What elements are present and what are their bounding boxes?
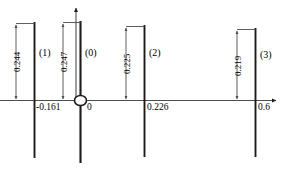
stem-diagram-figure: 0.244 0.247 0.225 0.219 (1) (0) (2) (3) …: [0, 0, 286, 169]
x-label-stem-1: -0.161: [36, 103, 61, 113]
dim-label-stem-0: 0.247: [60, 52, 69, 72]
x-label-stem-2: 0.226: [147, 103, 168, 113]
group-label-0: (0): [85, 48, 97, 58]
group-label-1: (1): [39, 48, 51, 58]
group-label-2: (2): [149, 48, 161, 58]
dim-label-stem-3: 0.219: [234, 56, 243, 76]
dim-label-stem-1: 0.244: [13, 52, 22, 72]
dim-label-stem-2: 0.225: [123, 54, 132, 74]
diagram-canvas: [0, 0, 286, 169]
group-label-3: (3): [260, 50, 272, 60]
x-label-stem-3: 0.6: [258, 103, 270, 113]
origin-ellipse-icon: [75, 96, 87, 106]
x-label-origin: 0: [87, 103, 92, 113]
